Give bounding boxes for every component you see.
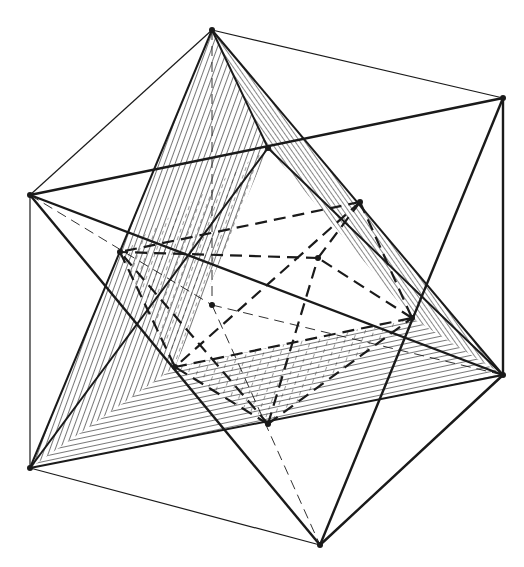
vertex-C	[27, 192, 33, 198]
vertex-T	[357, 199, 363, 205]
tetra1-edge-B-F	[320, 98, 503, 545]
diagram-canvas	[0, 0, 524, 567]
stella-octangula-figure	[0, 0, 524, 567]
vertex-D	[265, 145, 271, 151]
vertex-R	[409, 315, 415, 321]
vertex-Bt	[265, 421, 271, 427]
cube-edge-E-F	[30, 468, 320, 545]
vertex-B	[500, 95, 506, 101]
vertex-Fr	[172, 364, 178, 370]
vertex-H	[209, 302, 215, 308]
vertex-G	[500, 372, 506, 378]
vertex-A	[209, 27, 215, 33]
vertex-F	[317, 542, 323, 548]
vertex-E	[27, 465, 33, 471]
vertex-L	[117, 249, 123, 255]
vertex-Bk	[315, 255, 321, 261]
